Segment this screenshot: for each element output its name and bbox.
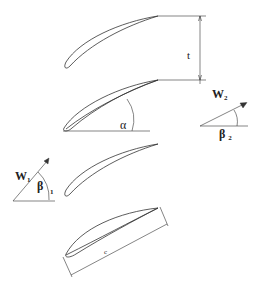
blade-3 <box>65 144 158 196</box>
beta1-label: β <box>37 180 43 192</box>
blade-2 <box>64 80 158 131</box>
blade-1 <box>65 16 158 68</box>
pitch-label: t <box>187 50 190 61</box>
beta2-label: β2 <box>219 128 232 140</box>
chord-label: c <box>104 249 107 256</box>
w2-label: W2 <box>212 88 228 100</box>
stagger-angle-label: α <box>120 119 126 131</box>
beta1-subscript: 1 <box>50 189 54 196</box>
w1-label: W1 <box>15 170 31 182</box>
cascade-diagram <box>0 0 256 294</box>
